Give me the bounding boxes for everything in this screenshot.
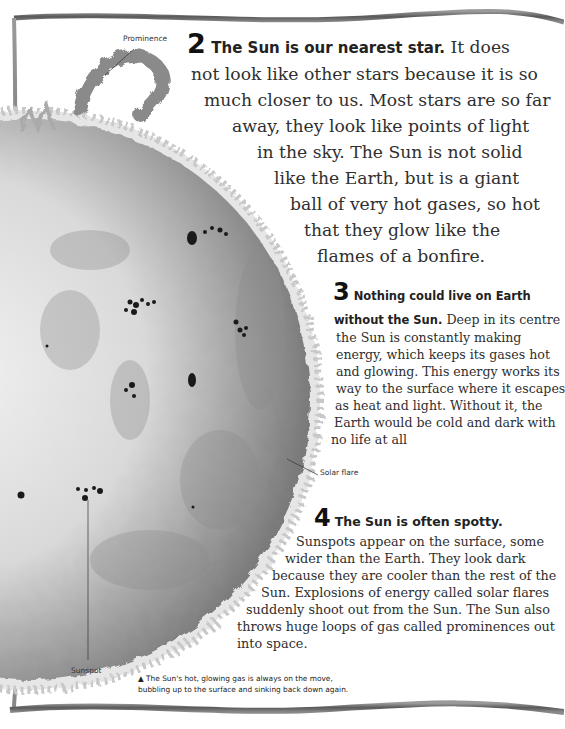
- fact-3-line: Earth would be cold and dark with: [334, 415, 556, 430]
- fact-4-line: suddenly shoot out from the Sun. The Sun…: [246, 602, 550, 617]
- sunspot-label: Sunspot: [71, 666, 101, 675]
- fact-2-line: much closer to us. Most stars are so far: [204, 90, 550, 110]
- fact-4-line: Sunspots appear on the surface, some: [296, 534, 544, 549]
- fact-2-line: that they glow like the: [304, 220, 500, 240]
- triangle-up-icon: ▲: [138, 674, 144, 683]
- fact-2-heading: The Sun is our nearest star.: [211, 39, 445, 57]
- fact-3-line: Deep in its centre: [446, 312, 560, 327]
- fact-3-line: as heat and light. Without it, the: [335, 398, 543, 413]
- solar-flare-label: Solar flare: [320, 468, 358, 477]
- fact-3-number: 3: [333, 278, 350, 306]
- prominence-label: Prominence: [123, 34, 167, 43]
- fact-2-line: not look like other stars because it is …: [191, 64, 538, 84]
- fact-4-line: because they are cooler than the rest of…: [272, 568, 556, 583]
- fact-3-line: the Sun is constantly making: [336, 330, 521, 345]
- fact-2-line: away, they look like points of light: [232, 116, 529, 136]
- fact-3-line: no life at all: [331, 432, 407, 447]
- fact-2-line: in the sky. The Sun is not solid: [257, 142, 523, 162]
- fact-3-heading-line2: without the Sun.: [334, 313, 442, 327]
- fact-2-number: 2: [187, 28, 206, 59]
- fact-3-line: way to the surface where it escapes: [336, 381, 565, 396]
- fact-4-line: into space.: [237, 636, 307, 651]
- fact-2-line: ball of very hot gases, so hot: [290, 194, 540, 214]
- fact-4-line: wider than the Earth. They look dark: [285, 551, 526, 566]
- caption-line: bubbling up to the surface and sinking b…: [138, 684, 348, 695]
- caption-line: The Sun's hot, glowing gas is always on …: [146, 674, 333, 683]
- fact-3-line: and glowing. This energy works its: [336, 364, 560, 379]
- fact-2-line: It does: [450, 37, 510, 57]
- fact-2-line: like the Earth, but is a giant: [274, 168, 519, 188]
- image-caption: ▲ The Sun's hot, glowing gas is always o…: [138, 673, 348, 695]
- fact-4-number: 4: [314, 504, 331, 532]
- fact-4-heading: The Sun is often spotty.: [335, 514, 503, 529]
- fact-3-heading-line1: Nothing could live on Earth: [354, 289, 531, 303]
- fact-2-line: flames of a bonfire.: [317, 246, 485, 266]
- fact-4-line: throws huge loops of gas called prominen…: [237, 619, 555, 634]
- fact-4-line: Sun. Explosions of energy called solar f…: [261, 585, 549, 600]
- fact-3-line: energy, which keeps its gases hot: [336, 347, 550, 362]
